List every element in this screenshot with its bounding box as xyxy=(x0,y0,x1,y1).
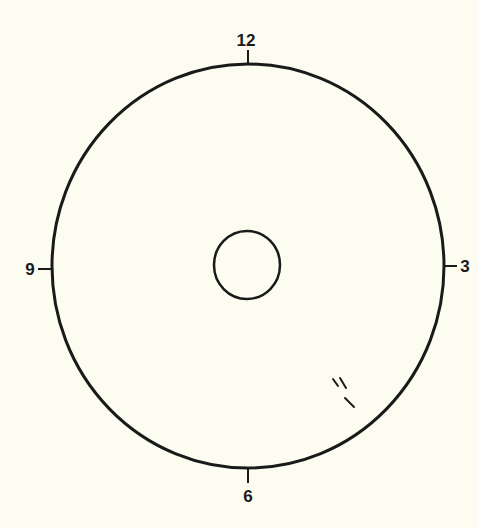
mark-stroke xyxy=(333,379,338,386)
clock-diagram: 12 3 6 9 xyxy=(0,0,478,528)
hour-label-6: 6 xyxy=(243,487,252,506)
hour-label-3: 3 xyxy=(460,257,469,276)
hand-drawn-marks xyxy=(333,378,354,407)
hour-marker-12: 12 xyxy=(237,31,256,64)
mark-stroke xyxy=(340,378,346,388)
clock-center-circle xyxy=(214,231,280,299)
clock-outer-circle xyxy=(52,64,444,468)
hour-label-9: 9 xyxy=(25,260,34,279)
hour-label-12: 12 xyxy=(237,31,256,50)
hour-marker-3: 3 xyxy=(444,257,470,276)
hour-marker-6: 6 xyxy=(243,469,252,506)
mark-stroke xyxy=(345,398,354,407)
hour-marker-9: 9 xyxy=(25,260,52,279)
